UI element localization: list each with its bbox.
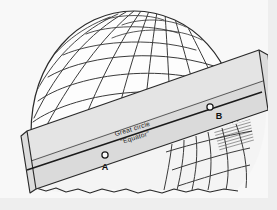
page-edge-right xyxy=(268,0,277,210)
figure-container: Great circle "Equator" A B xyxy=(0,0,277,210)
point-a-label: A xyxy=(102,162,109,172)
great-circle-diagram: Great circle "Equator" A B xyxy=(0,0,277,210)
point-a-marker xyxy=(102,152,108,158)
point-a: A xyxy=(102,152,109,172)
page-edge-bottom xyxy=(0,198,277,210)
point-b-label: B xyxy=(216,111,223,121)
point-b-marker xyxy=(207,104,213,110)
